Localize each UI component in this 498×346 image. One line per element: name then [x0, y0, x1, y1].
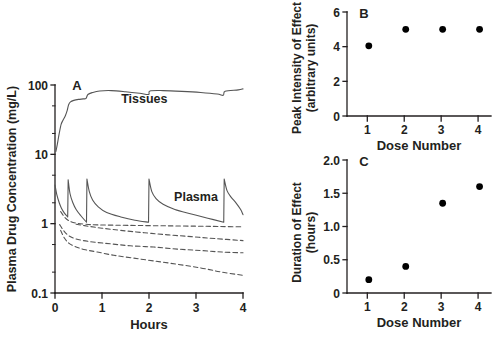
panel-a-curve-dashed-curve-3	[60, 225, 243, 253]
figure-canvas: 1001010.101234HoursPlasma Drug Concentra…	[0, 0, 498, 346]
panel-b-x-axis-label: Dose Number	[377, 138, 462, 153]
panel-a-x-tick-label: 3	[193, 301, 200, 315]
panel-c-y-tick-label: 1.0	[323, 220, 340, 234]
panel-c-x-tick-label: 1	[364, 300, 371, 314]
panel-b-data-point	[476, 26, 483, 33]
panel-a-y-tick-label: 1	[41, 217, 48, 231]
panel-b-data-point	[439, 26, 446, 33]
panel-b-y-axis-label-2: (arbitrary units)	[304, 24, 318, 113]
panel-a-y-tick-label: 0.1	[31, 287, 48, 301]
panel-c-x-axis-label: Dose Number	[377, 315, 462, 330]
panel-a-curve-dashed-curve-1	[61, 211, 243, 226]
panel-c-letter: C	[359, 154, 369, 169]
panel-b-x-tick-label: 4	[475, 123, 482, 137]
panel-c-y-tick-label: 0	[333, 287, 340, 301]
panel-a-x-tick-label: 1	[99, 301, 106, 315]
panel-a-x-tick-label: 4	[240, 301, 247, 315]
panel-a-annotation-plasma: Plasma	[174, 190, 219, 204]
panel-a-x-tick-label: 2	[146, 301, 153, 315]
panel-a-x-axis-label: Hours	[130, 317, 168, 332]
panel-a-annotation-tissues: Tissues	[121, 92, 167, 106]
panel-b-y-tick-label: 6	[333, 6, 340, 20]
panel-a-letter: A	[72, 78, 82, 93]
panel-c-y-tick-label: 2.0	[323, 154, 340, 168]
panel-b-data-point	[365, 42, 372, 49]
panel-c-data-point	[476, 183, 483, 190]
panel-c-x-tick-label: 2	[401, 300, 408, 314]
panel-a-y-tick-label: 100	[28, 79, 48, 93]
panel-c-y-tick-label: 1.5	[323, 187, 340, 201]
panel-b-y-axis-label: Peak Intensity of Effect	[290, 2, 304, 134]
panel-a-y-tick-label: 10	[35, 148, 49, 162]
panel-b-y-tick-label: 2	[333, 75, 340, 89]
panel-c-y-tick-label: 0.5	[323, 253, 340, 267]
panel-c-data-point	[402, 263, 409, 270]
panel-b-x-tick-label: 3	[438, 123, 445, 137]
panel-b-y-tick-label: 4	[333, 40, 340, 54]
panel-a-curve-dashed-curve-4	[61, 230, 243, 275]
panel-b-data-point	[402, 26, 409, 33]
panel-a-x-tick-label: 0	[52, 301, 59, 315]
panel-c-y-axis-label-2: (hours)	[304, 212, 318, 253]
panel-c-data-point	[439, 200, 446, 207]
panel-c-x-tick-label: 4	[475, 300, 482, 314]
panel-b-y-tick-label: 0	[333, 110, 340, 124]
panel-c-y-axis-label: Duration of Effect	[290, 182, 304, 283]
panel-b-x-tick-label: 2	[401, 123, 408, 137]
panel-b-letter: B	[359, 6, 368, 21]
panel-c-data-point	[365, 276, 372, 283]
panel-c-x-tick-label: 3	[438, 300, 445, 314]
panel-b-x-tick-label: 1	[364, 123, 371, 137]
panel-a-y-axis-label: Plasma Drug Concentration (mg/L)	[5, 86, 19, 292]
pharmacokinetics-figure: 1001010.101234HoursPlasma Drug Concentra…	[0, 0, 498, 346]
